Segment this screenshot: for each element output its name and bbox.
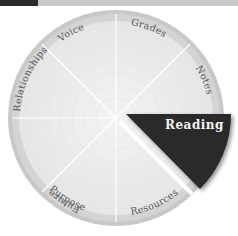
wheel-diagram: Reading Voice Grades Notes Relationships…: [0, 0, 238, 236]
segment-reading-label: Reading: [165, 118, 224, 132]
